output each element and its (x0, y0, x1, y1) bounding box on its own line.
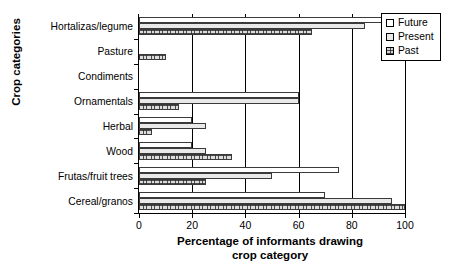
bar-past (139, 54, 166, 60)
category-label: Condiments (22, 71, 133, 82)
category-label-group: Hortalizas/legumePastureCondimentsOrname… (22, 14, 133, 213)
plot-area: 020406080100 (138, 14, 405, 214)
x-axis-title-line2: crop category (120, 248, 420, 262)
legend-item: Past (386, 45, 434, 56)
x-axis-tick-label: 80 (346, 219, 358, 231)
x-axis-tick-label: 20 (186, 219, 198, 231)
category-label: Hortalizas/legume (22, 21, 133, 32)
legend-item: Present (386, 31, 434, 42)
bar-chart-figure: Crop categories Hortalizas/legumePasture… (0, 0, 466, 277)
category-label: Pasture (22, 46, 133, 57)
x-axis-tick-label: 0 (136, 219, 142, 231)
y-axis-tick (134, 213, 139, 214)
x-axis-title: Percentage of informants drawing crop ca… (120, 234, 420, 262)
legend-item: Future (386, 17, 434, 28)
y-axis-tick (134, 89, 139, 90)
category-label: Cereal/granos (22, 195, 133, 206)
legend-label: Future (398, 17, 428, 28)
gridline (245, 14, 246, 213)
x-axis-tick (139, 213, 140, 218)
gridline (352, 14, 353, 213)
y-axis-tick (134, 39, 139, 40)
legend-label: Past (398, 45, 419, 56)
bar-past (139, 154, 232, 160)
x-axis-title-line1: Percentage of informants drawing (120, 234, 420, 248)
x-axis-tick (192, 213, 193, 218)
legend-swatch-past-icon (386, 47, 394, 55)
legend-swatch-present-icon (386, 33, 394, 41)
x-axis-tick-label: 100 (396, 219, 414, 231)
category-label: Frutas/fruit trees (22, 170, 133, 181)
bar-past (139, 29, 312, 35)
category-label: Wood (22, 145, 133, 156)
x-axis-tick-label: 60 (293, 219, 305, 231)
category-label: Herbal (22, 120, 133, 131)
x-axis-tick (405, 213, 406, 218)
y-axis-tick (134, 114, 139, 115)
legend-label: Present (398, 31, 434, 42)
x-axis-tick (299, 213, 300, 218)
bar-past (139, 204, 405, 210)
chart-legend: FuturePresentPast (381, 13, 441, 61)
x-axis-tick-label: 40 (240, 219, 252, 231)
y-axis-tick (134, 64, 139, 65)
y-axis-title: Crop categories (10, 0, 22, 127)
bar-past (139, 104, 179, 110)
bar-past (139, 179, 206, 185)
legend-swatch-future-icon (386, 19, 394, 27)
y-axis-tick (134, 138, 139, 139)
gridline (299, 14, 300, 213)
y-axis-tick (134, 188, 139, 189)
x-axis-tick (245, 213, 246, 218)
category-label: Ornamentals (22, 96, 133, 107)
y-axis-tick (134, 163, 139, 164)
bar-past (139, 129, 152, 135)
x-axis-tick (352, 213, 353, 218)
